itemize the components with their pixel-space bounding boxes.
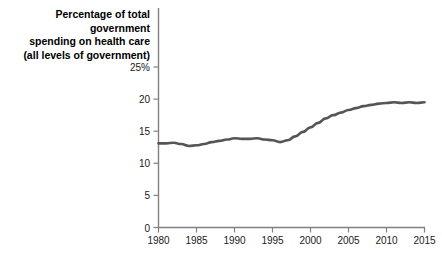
y-axis-tick-label: 10 xyxy=(110,158,150,169)
x-axis-tick-label: 2015 xyxy=(413,235,435,246)
chart-page: Percentage of total government spending … xyxy=(0,0,442,256)
x-axis-tick-label: 2005 xyxy=(337,235,359,246)
y-axis-tick-label: 0 xyxy=(110,222,150,233)
x-axis-tick-label: 1985 xyxy=(185,235,207,246)
data-series-line xyxy=(159,102,425,146)
y-axis-tick-label: 5 xyxy=(110,190,150,201)
x-axis-ticks xyxy=(159,228,425,233)
axis-lines xyxy=(159,8,426,228)
x-axis-tick-label: 1995 xyxy=(261,235,283,246)
y-axis-tick-label: 25% xyxy=(110,62,150,73)
x-axis-tick-label: 1990 xyxy=(223,235,245,246)
y-axis-tick-label: 15 xyxy=(110,126,150,137)
x-axis-tick-label: 2000 xyxy=(299,235,321,246)
x-axis-tick-label: 2010 xyxy=(375,235,397,246)
y-axis-ticks xyxy=(154,67,159,228)
y-axis-tick-label: 20 xyxy=(110,94,150,105)
line-chart-plot xyxy=(0,0,442,256)
x-axis-tick-label: 1980 xyxy=(147,235,169,246)
